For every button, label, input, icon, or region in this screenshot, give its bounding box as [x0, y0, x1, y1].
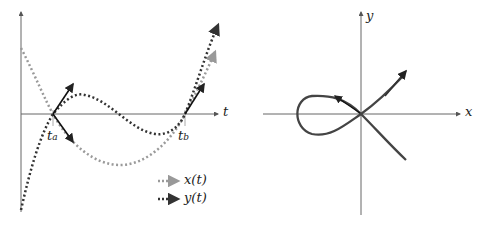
tangent-tb: [185, 84, 204, 114]
tangent-up-left: [335, 96, 360, 113]
loop-curve: [297, 75, 406, 160]
x-axis-label: x: [465, 104, 472, 119]
legend-y-label: y(t): [184, 190, 207, 205]
tick-label-ta: ta: [47, 128, 58, 143]
tangent-up-right: [385, 71, 406, 96]
diagram-canvas: [0, 0, 487, 225]
tangent-y-ta: [53, 84, 73, 114]
legend-x-label: x(t): [184, 172, 207, 187]
x-of-t-curve: [21, 48, 215, 165]
t-axis-label: t: [223, 104, 228, 119]
tick-label-tb: tb: [178, 128, 189, 143]
y-axis-label: y: [366, 8, 373, 23]
